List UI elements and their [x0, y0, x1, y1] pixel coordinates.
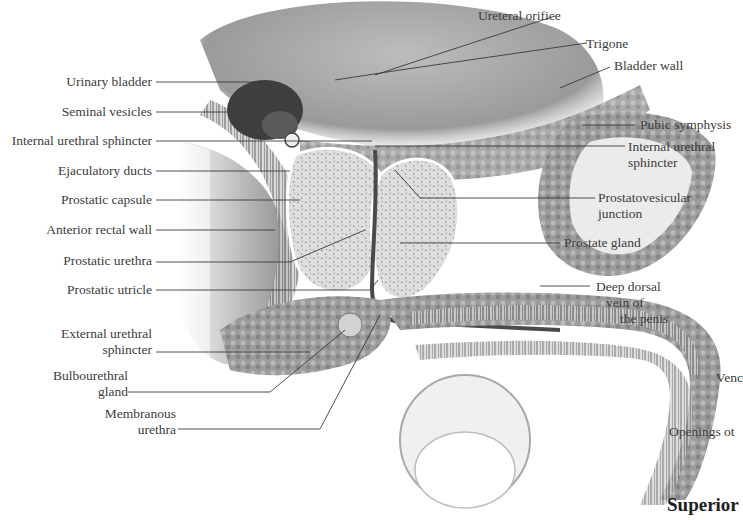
label-line: gland: [53, 384, 128, 400]
label-pubic-symphysis: Pubic symphysis: [640, 117, 731, 133]
label-line: sphincter: [628, 155, 715, 171]
label-anterior-rectal-wall: Anterior rectal wall: [46, 222, 152, 238]
label-line: Membranous: [105, 406, 176, 422]
label-urinary-bladder: Urinary bladder: [66, 74, 152, 90]
label-prostatic-urethra: Prostatic urethra: [63, 253, 152, 269]
label-prostatovesicular-junction: Prostatovesicular junction: [598, 190, 691, 222]
label-prostatic-utricle: Prostatic utricle: [67, 282, 152, 298]
label-external-urethral-sphincter: External urethral sphincter: [61, 326, 152, 358]
label-line: sphincter: [61, 342, 152, 358]
label-line: vein of: [596, 295, 668, 311]
label-ureteral-orifice: Ureteral orifice: [478, 8, 561, 24]
label-trigone: Trigone: [586, 36, 628, 52]
label-membranous-urethra: Membranous urethra: [105, 406, 176, 438]
label-line: Bulbourethral: [53, 368, 128, 384]
label-line: External urethral: [61, 326, 152, 342]
label-internal-urethral-sphincter-right: Internal urethral sphincter: [628, 139, 715, 171]
label-line: Deep dorsal: [596, 279, 668, 295]
label-prostatic-capsule: Prostatic capsule: [61, 192, 152, 208]
label-line: urethra: [105, 422, 176, 438]
label-line: Internal urethral: [628, 139, 715, 155]
label-fragment-venc: Venc: [716, 370, 743, 386]
label-bulbourethral-gland: Bulbourethral gland: [53, 368, 128, 400]
label-prostate-gland: Prostate gland: [564, 235, 641, 251]
label-seminal-vesicles: Seminal vesicles: [62, 104, 152, 120]
label-ejaculatory-ducts: Ejaculatory ducts: [58, 163, 152, 179]
label-fragment-openings: Openings ot: [669, 424, 735, 440]
heading-fragment-superior: Superior: [667, 494, 739, 516]
label-internal-urethral-sphincter-left: Internal urethral sphincter: [12, 133, 152, 149]
label-line: junction: [598, 206, 691, 222]
label-line: Prostatovesicular: [598, 190, 691, 206]
label-bladder-wall: Bladder wall: [614, 58, 683, 74]
label-line: the penis: [596, 311, 668, 327]
label-deep-dorsal-vein: Deep dorsal vein of the penis: [596, 279, 668, 327]
